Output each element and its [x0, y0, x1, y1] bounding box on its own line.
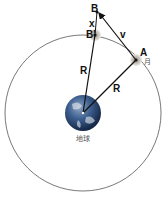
label-b-prime: B'	[86, 29, 96, 40]
label-x: x	[89, 18, 95, 29]
label-a: A	[140, 47, 147, 58]
label-earth: 地球	[76, 134, 90, 143]
label-r-left: R	[80, 65, 88, 76]
orbit-diagram: B B' x v A 月 R R 地球	[0, 0, 167, 202]
label-r-right: R	[113, 83, 121, 94]
label-b: B	[91, 3, 98, 14]
label-v: v	[120, 29, 126, 40]
label-moon: 月	[144, 58, 151, 66]
velocity-arrow	[99, 13, 136, 60]
radius-to-a	[83, 60, 136, 113]
